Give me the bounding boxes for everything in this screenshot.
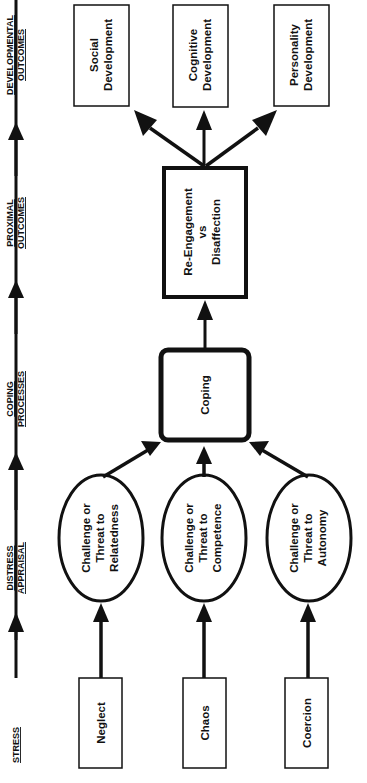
stage-arrow-icon-3	[8, 280, 24, 334]
arrow-competence-to-coping	[196, 446, 212, 477]
developmental-node-cognitive: Cognitive Development	[173, 5, 228, 107]
developmental-line1: Personality	[288, 23, 300, 86]
appraisal-line3: Relatedness	[108, 504, 120, 572]
arrow-relatedness-to-coping	[103, 441, 161, 477]
stage-label-distress-line1: DISTRESS	[5, 545, 15, 590]
arrowhead-icon	[196, 446, 212, 464]
stage-arrow-icon-2	[8, 452, 24, 510]
arrow-neglect-to-relatedness	[93, 603, 109, 678]
arrowhead-icon	[8, 612, 24, 632]
arrow-autonomy-to-coping	[249, 441, 308, 477]
appraisal-line3: Autonomy	[316, 509, 328, 566]
proximal-line3: Disaffection	[210, 199, 222, 265]
coping-node: Coping	[161, 350, 249, 440]
appraisal-line1: Challenge or	[288, 503, 300, 573]
arrow-coercion-to-autonomy	[300, 603, 316, 678]
proximal-line2: vs	[196, 226, 208, 239]
stage-label-coping-line2: PROCESSES	[16, 371, 26, 427]
developmental-line2: Development	[201, 19, 213, 91]
stage-arrow-icon-4	[8, 122, 24, 176]
coping-label: Coping	[199, 375, 211, 415]
arrowhead-icon	[300, 603, 316, 622]
stressor-node-coercion: Coercion	[285, 678, 328, 768]
arrowhead-icon	[252, 110, 277, 136]
developmental-node-personality: Personality Development	[274, 5, 329, 106]
appraisal-line3: Competence	[211, 503, 223, 572]
arrow-coping-to-proximal	[197, 300, 213, 350]
developmental-node-social: Social Development	[74, 5, 129, 106]
arrow-proximal-to-personality	[206, 110, 277, 166]
stressor-node-neglect: Neglect	[79, 678, 122, 768]
proximal-line1: Re-Engagement	[182, 188, 194, 276]
appraisal-line1: Challenge or	[183, 503, 195, 573]
stage-header-proximal-outcomes: PROXIMAL OUTCOMES	[5, 197, 26, 249]
appraisal-line1: Challenge or	[80, 503, 92, 573]
appraisal-node-autonomy: Challenge or Threat to Autonomy	[267, 475, 351, 601]
appraisal-line2: Threat to	[94, 513, 106, 562]
stressor-label: Neglect	[95, 702, 107, 744]
arrowhead-icon	[196, 603, 212, 622]
stage-header-coping-processes: COPING PROCESSES	[5, 371, 26, 427]
appraisal-node-relatedness: Challenge or Threat to Relatedness	[59, 475, 143, 601]
developmental-line1: Social	[88, 38, 100, 72]
stage-header-stress: STRESS	[11, 727, 21, 763]
stage-arrow-icon-1	[8, 612, 24, 678]
stressor-label: Chaos	[199, 705, 211, 740]
developmental-line1: Cognitive	[187, 29, 199, 81]
stage-label-stress: STRESS	[11, 727, 21, 763]
stage-header-distress-appraisal: DISTRESS APPRAISAL	[5, 542, 26, 595]
stage-label-coping-line1: COPING	[5, 381, 15, 417]
arrow-chaos-to-competence	[196, 603, 212, 678]
arrowhead-icon	[8, 122, 24, 140]
stage-label-proximal-line2: OUTCOMES	[16, 197, 26, 249]
stage-label-distress-line2: APPRAISAL	[16, 542, 26, 595]
stressor-label: Coercion	[301, 698, 313, 748]
appraisal-line2: Threat to	[197, 513, 209, 562]
stress-coping-diagram: STRESS DISTRESS APPRAISAL COPING PROCESS…	[0, 0, 367, 783]
arrow-proximal-to-cognitive	[196, 110, 212, 166]
developmental-line2: Development	[302, 19, 314, 91]
arrowhead-icon	[8, 280, 24, 298]
arrowhead-icon	[197, 300, 213, 320]
stressor-node-chaos: Chaos	[183, 678, 226, 768]
arrow-proximal-to-social	[134, 110, 204, 166]
stage-label-proximal-line1: PROXIMAL	[5, 199, 15, 247]
appraisal-node-competence: Challenge or Threat to Competence	[162, 475, 246, 601]
developmental-line2: Development	[102, 19, 114, 91]
appraisal-line2: Threat to	[302, 513, 314, 562]
stage-label-developmental-line2: OUTCOMES	[16, 29, 26, 81]
arrowhead-icon	[8, 452, 24, 470]
stage-label-developmental-line1: DEVELOPMENTAL	[5, 15, 15, 95]
arrowhead-icon	[93, 603, 109, 622]
arrowhead-icon	[196, 110, 212, 130]
proximal-outcome-node: Re-Engagement vs Disaffection	[164, 168, 246, 297]
